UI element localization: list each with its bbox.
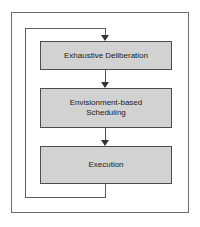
feedback-loop-left-segment [25, 28, 26, 198]
feedback-loop-exit-segment [105, 184, 106, 198]
process-node-exhaustive-deliberation[interactable]: Exhaustive Deliberation [40, 41, 172, 70]
process-node-label: Envisionment-based Scheduling [66, 98, 146, 118]
process-node-label: Execution [84, 160, 127, 170]
process-node-envisionment-based-scheduling[interactable]: Envisionment-based Scheduling [40, 88, 172, 128]
feedback-loop-bottom-segment [25, 197, 106, 198]
process-node-execution[interactable]: Execution [40, 146, 172, 184]
flowchart-figure: Exhaustive Deliberation Envisionment-bas… [0, 0, 200, 227]
feedback-loop-top-segment [25, 28, 106, 29]
process-node-label: Exhaustive Deliberation [60, 51, 152, 61]
